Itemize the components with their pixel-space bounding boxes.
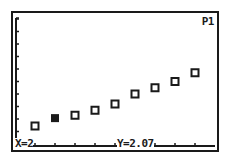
scatter-point [132,91,139,98]
scatter-point [92,107,99,114]
scatter-point [32,123,39,130]
trace-x-value: X=2 [15,138,33,149]
scatter-plot [13,13,217,150]
trace-cursor-point [51,114,59,122]
trace-y-value: Y=2.07 [117,138,154,149]
scatter-point [112,101,119,108]
scatter-point [72,112,79,119]
scatter-point [152,84,159,91]
scatter-point [172,78,179,85]
calculator-graph-screen: P1 X=2 Y=2.07 [11,11,219,152]
scatter-point [192,69,199,76]
data-points [32,69,199,129]
plot-indicator: P1 [202,16,214,27]
axes [16,18,215,146]
